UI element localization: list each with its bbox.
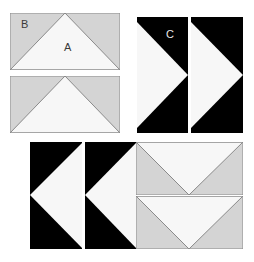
tile-black-left-1 — [30, 142, 82, 249]
gray-valley-shape-2 — [136, 196, 243, 249]
tile-black-right-2 — [191, 17, 243, 133]
tile-black-right-1 — [137, 17, 188, 133]
black-right-arrow-shape-1 — [137, 17, 188, 133]
black-right-arrow-shape-2 — [191, 17, 243, 133]
tile-black-left-2 — [85, 142, 136, 249]
black-left-arrow-shape-2 — [85, 142, 136, 249]
figure-canvas: B A C — [0, 0, 254, 262]
label-b: B — [21, 19, 29, 30]
gray-peak-shape-2 — [10, 76, 120, 133]
tile-gray-valley-1 — [136, 142, 243, 195]
tile-gray-valley-2 — [136, 196, 243, 249]
tile-gray-peak-2 — [10, 76, 120, 133]
black-left-arrow-shape-1 — [30, 142, 82, 249]
label-a: A — [64, 42, 72, 53]
label-c: C — [166, 29, 174, 40]
gray-valley-shape-1 — [136, 142, 243, 195]
